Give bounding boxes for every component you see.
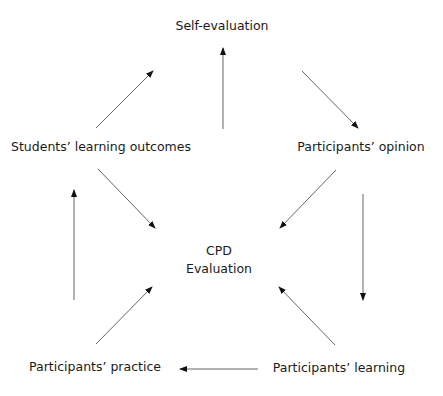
- arrow-outcomes-to-self: [96, 71, 153, 128]
- diagram-arrows: [0, 0, 443, 396]
- center-label-line2: Evaluation: [186, 260, 252, 278]
- node-participants-practice: Participants’ practice: [29, 361, 161, 374]
- arrow-practice-to-center: [96, 287, 152, 344]
- arrow-opinion-to-center: [280, 170, 336, 228]
- center-node-cpd-evaluation: CPD Evaluation: [186, 242, 252, 278]
- arrow-self-to-opinion: [302, 71, 358, 128]
- node-participants-opinion: Participants’ opinion: [297, 141, 424, 154]
- arrow-outcomes-to-center: [98, 169, 155, 228]
- node-self-evaluation: Self-evaluation: [175, 20, 268, 33]
- center-label-line1: CPD: [186, 242, 252, 260]
- node-students-learning-outcomes: Students’ learning outcomes: [11, 141, 191, 154]
- arrow-learning-to-center: [279, 287, 335, 345]
- node-participants-learning: Participants’ learning: [273, 362, 405, 375]
